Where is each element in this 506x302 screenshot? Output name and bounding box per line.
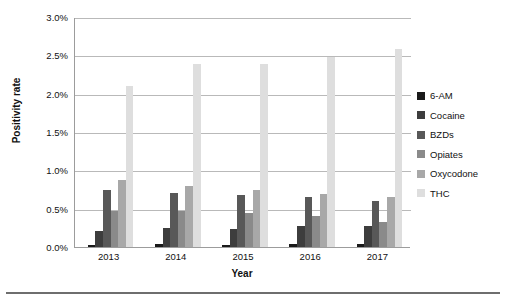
bar-cocaine-2016 (297, 226, 305, 247)
y-axis-tick-label: 2.5% (8, 51, 68, 61)
y-axis-tick-label: 0.0% (8, 243, 68, 253)
bar-group (155, 17, 201, 247)
y-axis-tick-label: 3.0% (8, 13, 68, 23)
bar-cocaine-2014 (163, 228, 171, 247)
bar-6-am-2014 (155, 244, 163, 247)
x-axis-tick-label: 2015 (208, 251, 278, 262)
bar-cocaine-2013 (95, 231, 103, 247)
y-axis-title: Positivity rate (11, 51, 22, 171)
bar-thc-2015 (260, 64, 268, 247)
bar-bzds-2017 (372, 201, 380, 247)
bar-oxycodone-2017 (387, 197, 395, 247)
y-axis-tick-label: 1.5% (8, 128, 68, 138)
legend-item-label: Oxycodone (430, 168, 478, 179)
y-axis-tick-label: 0.5% (8, 205, 68, 215)
bar-thc-2016 (327, 57, 335, 247)
y-axis-tick-label: 1.0% (8, 166, 68, 176)
legend-item-label: Opiates (430, 149, 463, 160)
legend-swatch-icon (417, 131, 425, 139)
plot-area: 0.0%0.5%1.0%1.5%2.0%2.5%3.0% 20132014201… (74, 18, 410, 248)
bar-thc-2013 (126, 86, 134, 247)
bar-6-am-2015 (222, 245, 230, 247)
bar-series-container (75, 17, 411, 247)
x-axis-tick-label: 2013 (74, 251, 144, 262)
bar-chart-figure: Positivity rate 0.0%0.5%1.0%1.5%2.0%2.5%… (0, 0, 506, 302)
bar-opiates-2013 (111, 211, 119, 247)
legend-swatch-icon (417, 189, 425, 197)
bar-opiates-2014 (178, 211, 186, 247)
bar-opiates-2016 (312, 216, 320, 247)
legend-item-bzds: BZDs (417, 125, 505, 145)
bar-bzds-2013 (103, 190, 111, 248)
bar-oxycodone-2015 (253, 190, 261, 248)
legend-item-oxycodone: Oxycodone (417, 164, 505, 184)
bar-bzds-2015 (237, 195, 245, 247)
legend-item-label: Cocaine (430, 110, 465, 121)
legend-swatch-icon (417, 111, 425, 119)
legend-item-label: BZDs (430, 129, 454, 140)
bar-cocaine-2015 (230, 229, 238, 247)
bar-oxycodone-2014 (185, 186, 193, 247)
bar-bzds-2016 (305, 197, 313, 247)
y-axis-tick-label: 2.0% (8, 90, 68, 100)
bar-group (222, 17, 268, 247)
legend-item-label: 6-AM (430, 90, 453, 101)
x-axis-tick-label: 2014 (141, 251, 211, 262)
page-divider-rule (6, 292, 500, 294)
bar-bzds-2014 (170, 193, 178, 247)
bar-cocaine-2017 (364, 226, 372, 247)
x-axis-tick-label: 2017 (342, 251, 412, 262)
legend-item-6-am: 6-AM (417, 86, 505, 106)
bar-6-am-2017 (357, 244, 365, 247)
legend-item-thc: THC (417, 184, 505, 204)
bar-oxycodone-2013 (118, 180, 126, 247)
bar-group (357, 17, 403, 247)
legend-swatch-icon (417, 150, 425, 158)
bar-thc-2017 (395, 49, 403, 247)
legend-item-opiates: Opiates (417, 145, 505, 165)
bar-opiates-2017 (379, 222, 387, 247)
legend-swatch-icon (417, 92, 425, 100)
x-axis-title: Year (74, 268, 410, 279)
legend-item-cocaine: Cocaine (417, 106, 505, 126)
chart-legend: 6-AMCocaineBZDsOpiatesOxycodoneTHC (417, 86, 505, 203)
legend-item-label: THC (430, 188, 450, 199)
bar-group (88, 17, 134, 247)
x-axis-tick-label: 2016 (275, 251, 345, 262)
bar-6-am-2016 (289, 244, 297, 247)
bar-group (289, 17, 335, 247)
bar-thc-2014 (193, 64, 201, 247)
bar-opiates-2015 (245, 213, 253, 248)
bar-6-am-2013 (88, 245, 96, 247)
legend-swatch-icon (417, 170, 425, 178)
bar-oxycodone-2016 (320, 194, 328, 247)
